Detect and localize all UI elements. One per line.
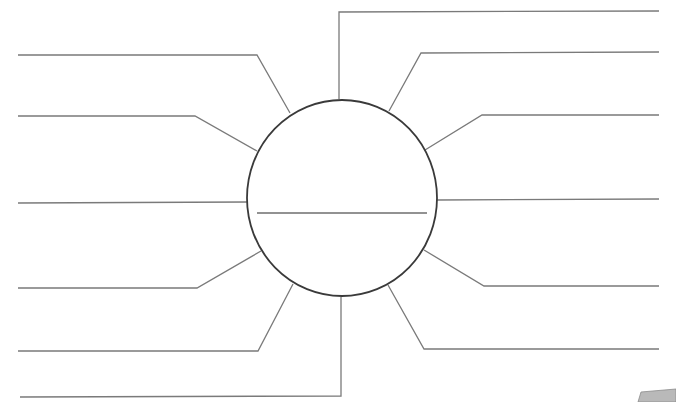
central-hub-circle (247, 100, 437, 296)
spoke-line-left-2 (18, 202, 247, 203)
spoke-line-right-6 (339, 11, 659, 99)
spoke-line-right-7 (389, 52, 659, 111)
spoke-line-left-3 (18, 251, 261, 288)
spoke-line-left-0 (18, 55, 290, 113)
spoke-line-right-10 (424, 250, 659, 286)
spider-map-diagram (0, 0, 676, 402)
spoke-line-right-11 (388, 285, 659, 349)
spoke-line-right-9 (437, 199, 659, 200)
spoke-line-left-5 (20, 297, 341, 397)
spoke-line-right-8 (425, 115, 659, 150)
spoke-line-left-1 (18, 116, 257, 151)
page-curl-corner (638, 389, 676, 402)
spoke-line-left-4 (18, 284, 293, 351)
